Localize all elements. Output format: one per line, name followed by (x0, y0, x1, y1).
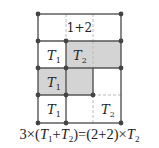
svg-text:T1: T1 (47, 102, 61, 119)
svg-text:T1: T1 (47, 48, 61, 65)
rhs-times-sign: × (119, 126, 127, 142)
t1: T (40, 126, 48, 142)
rhs-t: T (127, 126, 135, 142)
svg-text:T2: T2 (101, 102, 115, 119)
t2: T (61, 126, 69, 142)
top-label: 1+2 (67, 21, 92, 35)
grid-diagram: 1+2 T1 T2 T1 T1 T2 (0, 0, 159, 126)
rhs-t-sub: 2 (135, 134, 140, 144)
equation: 3×(T1+T2)=(2+2)×T2 (0, 126, 159, 143)
plus-sign: + (52, 126, 60, 142)
cell-label-r2c1: T1 (47, 48, 61, 65)
cell-label-r4c3: T2 (101, 102, 115, 119)
times-sign: × (27, 126, 35, 142)
rhs-paren: (2+2) (86, 126, 118, 142)
cell-label-r4c1: T1 (47, 102, 61, 119)
coef: 3 (20, 126, 27, 142)
